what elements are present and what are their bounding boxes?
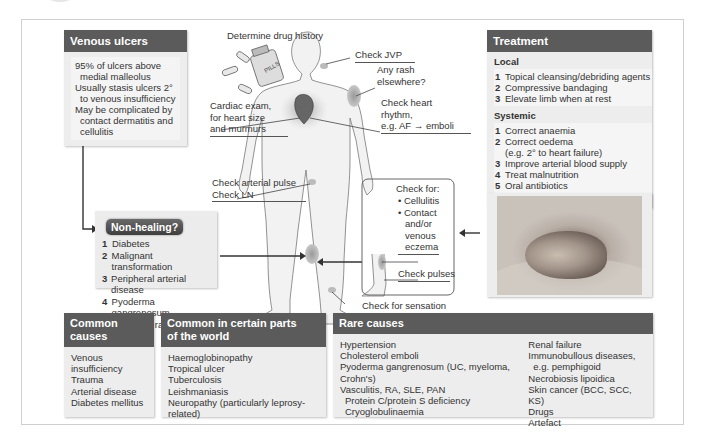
venous-line: medial malleolus xyxy=(75,71,176,82)
list-item: 1Diabetes xyxy=(102,238,211,250)
local-title: Local xyxy=(487,52,652,69)
list-item: e.g. pemphigoid xyxy=(528,361,646,372)
treatment-panel: Treatment Local 1Topical cleansing/debri… xyxy=(487,30,652,208)
list-item: Renal failure xyxy=(528,339,646,350)
list-item: Hypertension xyxy=(340,339,528,350)
list-item: • Cellulitis xyxy=(398,195,439,207)
list-item: 1Topical cleansing/debriding agents xyxy=(495,71,652,82)
list-item: Arterial disease xyxy=(71,386,147,397)
list-item: Immunobullous diseases, xyxy=(528,350,646,361)
list-item: Skin cancer (BCC, SCC, KS) xyxy=(528,384,646,406)
treatment-title: Treatment xyxy=(487,30,652,52)
list-item: Haemoglobinopathy xyxy=(168,352,319,363)
venous-line: contact dermatitis and xyxy=(75,115,176,126)
ulcer-photo-panel xyxy=(487,193,652,297)
list-item: Diabetes mellitus xyxy=(71,397,147,408)
check-for-list: • Cellulitis • Contact and/or venous ecz… xyxy=(398,195,439,255)
check-for-title: Check for: xyxy=(396,183,439,195)
list-item: 3Peripheral arterial disease xyxy=(102,273,211,296)
arm-rash-patch xyxy=(347,85,361,107)
label-cardiac-exam: Cardiac exam,for heart sizeand murmurs xyxy=(210,100,288,137)
rare-causes-col1: Hypertension Cholesterol emboli Pyoderma… xyxy=(340,339,528,429)
label-drug-history: Determine drug history xyxy=(227,30,323,42)
list-item: Venous insufficiency xyxy=(71,352,147,374)
list-item: 5Oral antibiotics xyxy=(495,180,652,191)
common-causes-title: Common causes xyxy=(64,313,154,347)
venous-line: cellulitis xyxy=(75,126,176,137)
list-item: 4Treat malnutrition xyxy=(495,169,652,180)
non-healing-badge: Non-healing? xyxy=(106,219,183,235)
world-causes-list: Haemoglobinopathy Tropical ulcer Tubercu… xyxy=(161,347,326,424)
label-arterial-pulse: Check arterial pulseCheck LN xyxy=(212,177,306,202)
rare-causes-col2: Renal failure Immunobullous diseases, e.… xyxy=(528,339,646,429)
venous-line: May be complicated by xyxy=(75,104,176,115)
systemic-list: 1Correct anaemia 2Correct oedema (e.g. 2… xyxy=(494,123,652,193)
list-item: 2Compressive bandaging xyxy=(495,82,652,93)
venous-ulcers-title: Venous ulcers xyxy=(64,30,187,52)
list-item: Cholesterol emboli xyxy=(340,350,528,361)
list-item: Artefact xyxy=(528,417,646,428)
leg-ulcer-patch xyxy=(305,244,319,264)
rare-causes-title: Rare causes xyxy=(333,313,653,334)
list-item: Pyoderma gangrenosum (UC, myeloma, Crohn… xyxy=(340,361,528,383)
systemic-title: Systemic xyxy=(487,106,652,123)
venous-ulcer-photo xyxy=(497,196,642,295)
common-causes-list: Venous insufficiency Trauma Arterial dis… xyxy=(64,347,154,413)
list-item: Vasculitis, RA, SLE, PAN xyxy=(340,384,528,395)
capsule-icons xyxy=(221,51,252,95)
rare-causes-list: Hypertension Cholesterol emboli Pyoderma… xyxy=(333,334,653,434)
world-causes-title: Common in certain partsof the world xyxy=(161,313,326,347)
local-list: 1Topical cleansing/debriding agents 2Com… xyxy=(494,69,652,106)
list-item: Drugs xyxy=(528,406,646,417)
world-causes-panel: Common in certain partsof the world Haem… xyxy=(161,313,326,417)
venous-line: Usually stasis ulcers 2° xyxy=(75,82,176,93)
list-item: 2Malignant transformation xyxy=(102,250,211,273)
list-item: Cryoglobulinaemia xyxy=(340,406,528,417)
list-item: 2Correct oedema xyxy=(495,136,652,147)
list-item: Tropical ulcer xyxy=(168,363,319,374)
label-check-jvp: Check JVP xyxy=(355,49,415,63)
venous-ulcers-body: 95% of ulcers above medial malleolus Usu… xyxy=(71,57,180,140)
label-heart-rhythm: Check heartrhythm,e.g. AF → emboli xyxy=(381,97,471,134)
list-item: Protein C/protein S deficiency xyxy=(340,395,528,406)
list-item: Necrobiosis lipoidica xyxy=(528,373,646,384)
venous-ulcers-panel: Venous ulcers 95% of ulcers above medial… xyxy=(64,30,187,146)
list-item: Leishmaniasis xyxy=(168,386,319,397)
list-item: 1Correct anaemia xyxy=(495,125,652,136)
label-check-pulses: Check pulses xyxy=(398,268,450,282)
list-item: Tuberculosis xyxy=(168,374,319,385)
venous-line: to venous insufficiency xyxy=(75,93,176,104)
list-item: 3Elevate limb when at rest xyxy=(495,93,652,104)
list-item: Trauma xyxy=(71,374,147,385)
rare-causes-panel: Rare causes Hypertension Cholesterol emb… xyxy=(333,313,653,417)
venous-line: 95% of ulcers above xyxy=(75,60,176,71)
common-causes-panel: Common causes Venous insufficiency Traum… xyxy=(64,313,154,417)
list-item: Neuropathy (particularly leprosy-related… xyxy=(168,397,319,419)
label-check-sensation: Check for sensation xyxy=(362,300,448,314)
non-healing-panel: Non-healing? 1Diabetes 2Malignant transf… xyxy=(95,211,217,288)
list-item: • Contact xyxy=(398,207,439,219)
list-item: 3Improve arterial blood supply xyxy=(495,158,652,169)
label-any-rash: Any rashelsewhere? xyxy=(377,64,426,87)
